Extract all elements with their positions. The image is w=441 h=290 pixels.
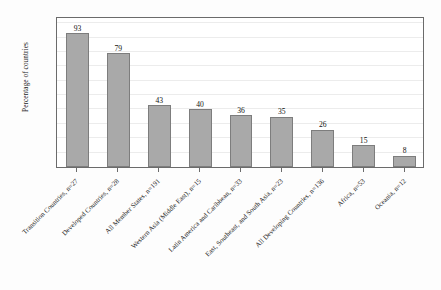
x-tick-mark bbox=[158, 168, 159, 172]
x-tick-mark bbox=[281, 168, 282, 172]
bar-value-label: 36 bbox=[231, 106, 252, 115]
x-tick-mark bbox=[240, 168, 241, 172]
x-tick-mark bbox=[117, 168, 118, 172]
bar-value-label: 43 bbox=[149, 96, 170, 105]
x-axis-label-text: East, Southeast, and South Asia, n=23 bbox=[204, 177, 285, 258]
x-tick-mark bbox=[199, 168, 200, 172]
x-tick-mark bbox=[404, 168, 405, 172]
x-axis-label-text: Western Asia (Middle East), n=15 bbox=[130, 177, 203, 250]
bar-value-label: 79 bbox=[108, 44, 129, 53]
bar-chart-figure: Percentage of countries 020406080100 937… bbox=[0, 0, 441, 290]
bar-value-label: 8 bbox=[394, 146, 415, 155]
x-axis-label-text: Latin America and Caribbean, n=33 bbox=[167, 177, 244, 254]
bar[interactable]: 93 bbox=[66, 33, 89, 167]
bar-value-label: 35 bbox=[271, 107, 292, 116]
bar-slot: 40 bbox=[180, 18, 221, 167]
bar-slot: 79 bbox=[98, 18, 139, 167]
x-axis-label-text: Africa, n=53 bbox=[335, 177, 366, 208]
bar-slot: 93 bbox=[57, 18, 98, 167]
x-tick-mark bbox=[322, 168, 323, 172]
x-axis-label-text: All Developing Countries, n=136 bbox=[254, 177, 326, 249]
x-axis-label-text: Oceania, n=12 bbox=[373, 177, 408, 212]
x-tick-mark bbox=[363, 168, 364, 172]
x-tick-mark bbox=[76, 168, 77, 172]
bar-slot: 43 bbox=[139, 18, 180, 167]
y-axis-title: Percentage of countries bbox=[19, 12, 33, 142]
bar-value-label: 40 bbox=[190, 100, 211, 109]
bar-slot: 8 bbox=[384, 18, 424, 167]
bar-value-label: 93 bbox=[67, 24, 88, 33]
